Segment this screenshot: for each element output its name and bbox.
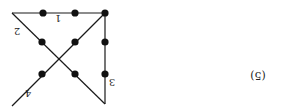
line-label-3: 3 <box>109 77 115 88</box>
grid-dot <box>39 9 46 16</box>
line-label-2: 2 <box>14 26 20 37</box>
nine-dot-puzzle-figure: 1234 (5) <box>0 0 286 112</box>
grid-dot <box>71 70 78 77</box>
figure-label: (5) <box>250 69 266 82</box>
grid-dot <box>71 9 78 16</box>
grid-dot <box>71 38 78 45</box>
line-label-1: 1 <box>55 13 61 24</box>
line-labels: 1234 <box>14 13 115 99</box>
grid-dot <box>38 70 45 77</box>
grid-dot <box>101 9 108 16</box>
grid-dot <box>101 70 108 77</box>
grid-dot <box>101 38 108 45</box>
grid-dot <box>38 38 45 45</box>
line-label-4: 4 <box>25 88 31 99</box>
